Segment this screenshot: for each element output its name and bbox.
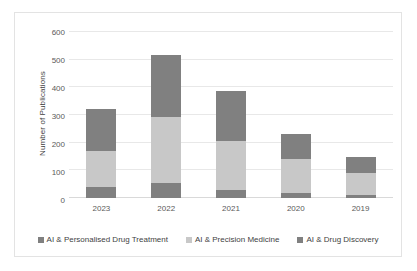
legend-item[interactable]: AI & Drug Discovery	[297, 235, 378, 244]
bar-group[interactable]	[137, 32, 195, 198]
y-axis-tick-label: 200	[33, 140, 65, 149]
bar-segment[interactable]	[346, 195, 376, 198]
x-axis-tick-label: 2021	[202, 204, 260, 218]
plot-area	[69, 32, 393, 198]
bar-segment[interactable]	[86, 109, 116, 151]
bar-segment[interactable]	[216, 190, 246, 198]
bar-segment[interactable]	[281, 134, 311, 159]
chart-card: Number of Publications 01002003004005006…	[14, 12, 402, 257]
bar-segment[interactable]	[151, 183, 181, 198]
y-axis-tick-label: 300	[33, 112, 65, 121]
bar-segment[interactable]	[216, 91, 246, 141]
bar-segment[interactable]	[346, 157, 376, 173]
bar-segment[interactable]	[151, 55, 181, 117]
chart-plot-wrapper: Number of Publications 01002003004005006…	[15, 13, 401, 256]
bar-segment[interactable]	[281, 193, 311, 198]
stacked-bar[interactable]	[86, 109, 116, 198]
stacked-bar[interactable]	[216, 91, 246, 198]
bar-segment[interactable]	[216, 141, 246, 191]
legend-swatch-icon	[186, 237, 192, 243]
bar-segment[interactable]	[86, 187, 116, 198]
stacked-bar[interactable]	[151, 55, 181, 198]
stacked-bar[interactable]	[281, 134, 311, 198]
bar-segment[interactable]	[151, 117, 181, 183]
legend-item[interactable]: AI & Precision Medicine	[186, 235, 279, 244]
chart-legend: AI & Personalised Drug TreatmentAI & Pre…	[15, 235, 401, 244]
y-axis-tick-label: 400	[33, 84, 65, 93]
bar-group[interactable]	[72, 32, 130, 198]
x-axis-tick-label: 2023	[72, 204, 130, 218]
legend-label: AI & Precision Medicine	[195, 235, 279, 244]
x-axis-tick-label: 2022	[137, 204, 195, 218]
bar-segment[interactable]	[281, 159, 311, 193]
y-axis-tick-label: 100	[33, 168, 65, 177]
y-axis-tick-label: 0	[33, 196, 65, 205]
bar-segment[interactable]	[86, 151, 116, 187]
bar-series-container	[69, 32, 393, 198]
bar-group[interactable]	[202, 32, 260, 198]
bar-group[interactable]	[267, 32, 325, 198]
bar-segment[interactable]	[346, 173, 376, 195]
legend-swatch-icon	[297, 237, 303, 243]
x-axis-tick-label: 2020	[267, 204, 325, 218]
bar-group[interactable]	[331, 32, 389, 198]
x-axis-tick-label: 2019	[331, 204, 389, 218]
y-axis-tick-labels: 0100200300400500600	[33, 13, 65, 256]
y-axis-tick-label: 500	[33, 56, 65, 65]
y-axis-tick-label: 600	[33, 28, 65, 37]
stacked-bar[interactable]	[346, 157, 376, 198]
legend-item[interactable]: AI & Personalised Drug Treatment	[38, 235, 168, 244]
legend-label: AI & Personalised Drug Treatment	[47, 235, 168, 244]
x-axis-tick-labels: 20232022202120202019	[69, 204, 393, 218]
legend-label: AI & Drug Discovery	[306, 235, 378, 244]
legend-swatch-icon	[38, 237, 44, 243]
